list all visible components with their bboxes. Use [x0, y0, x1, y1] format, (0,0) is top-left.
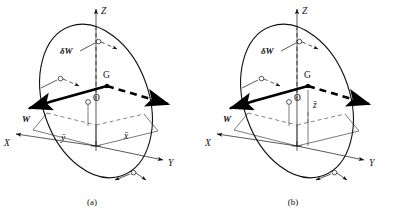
panel-a: Z X Y [0, 0, 201, 213]
rotation-marker-left-b [242, 76, 280, 88]
y-axis-label-b: Y [369, 158, 376, 168]
weight-vector-label-b: W [223, 114, 232, 124]
caption-b: (b) [288, 197, 299, 207]
figure-container: Z X Y [0, 0, 402, 213]
y-axis-a [96, 146, 163, 160]
origin-label-b: O [294, 93, 301, 103]
cg-label-a: G [103, 70, 110, 80]
cg-marker-a [105, 84, 109, 88]
cg-marker-b [306, 84, 310, 88]
rotation-marker-left-a [41, 76, 79, 88]
virtual-work-label-a: δW [60, 46, 74, 56]
y-axis-label-a: Y [168, 158, 175, 168]
base-tick-a [91, 141, 101, 151]
virtual-work-label-b: δW [261, 46, 275, 56]
cg-label-b: G [304, 70, 311, 80]
rotation-marker-top-a [80, 39, 117, 51]
x-axis-label-b: X [204, 138, 212, 148]
base-tick-b [292, 141, 302, 151]
caption-a: (a) [87, 197, 97, 207]
weight-vector-label-a: W [22, 114, 31, 124]
z-axis-label-a: Z [101, 6, 107, 16]
x-axis-label-a: X [3, 138, 11, 148]
origin-marker-b [287, 100, 292, 105]
panel-b: Z X Y [201, 0, 402, 213]
base-parallelogram-b [234, 113, 359, 146]
x-bar-label-a: x̄ [123, 131, 129, 141]
origin-label-a: O [93, 93, 100, 103]
y-bar-label-a: ȳ [60, 133, 66, 143]
z-axis-label-b: Z [302, 6, 308, 16]
z-bar-label-b: z̄ [312, 100, 317, 110]
base-parallelogram-a [33, 113, 158, 146]
rotation-marker-top-b [281, 39, 318, 51]
y-axis-b [297, 146, 364, 160]
resultant-dashed-vector-a [107, 86, 168, 104]
resultant-dashed-vector-b [308, 86, 369, 104]
origin-marker-a [86, 100, 91, 105]
